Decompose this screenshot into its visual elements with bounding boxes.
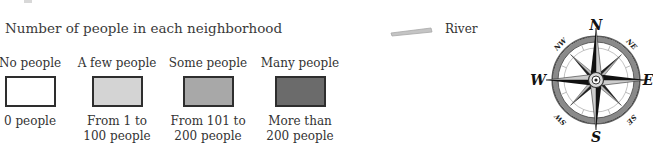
legend-item-few-people: A few people From 1 to 100 people <box>69 56 165 143</box>
legend-desc-line2: 100 people <box>69 129 165 143</box>
legend-item-description: 0 people <box>0 114 78 129</box>
legend-desc-line2: 200 people <box>252 129 348 143</box>
legend-title: Number of people in each neighborhood <box>5 20 282 36</box>
legend-item-label: Some people <box>160 56 256 76</box>
legend-swatch-dark-gray <box>275 76 326 107</box>
legend-item-description: More than 200 people <box>252 114 348 143</box>
compass-southeast-label: SE <box>624 113 638 127</box>
compass-west-label: W <box>530 72 547 88</box>
legend-desc-line1: More than <box>252 114 348 129</box>
legend-desc-line1: From 1 to <box>69 114 165 129</box>
legend-desc-line1: 0 people <box>0 114 78 129</box>
compass-east-label: E <box>642 72 653 88</box>
legend-swatch-light-gray <box>92 76 143 107</box>
legend-desc-line2: 200 people <box>160 129 256 143</box>
river-icon <box>390 24 434 38</box>
legend-item-some-people: Some people From 101 to 200 people <box>160 56 256 143</box>
legend-item-many-people: Many people More than 200 people <box>252 56 348 143</box>
legend-swatch-white <box>5 76 56 107</box>
compass-southwest-label: SW <box>552 111 568 127</box>
river-label: River <box>445 22 478 36</box>
legend-swatch-mid-gray <box>183 76 234 107</box>
legend-item-description: From 1 to 100 people <box>69 114 165 143</box>
legend-item-label: Many people <box>252 56 348 76</box>
compass-south-label: S <box>591 129 601 143</box>
compass-rose-icon: N S W E NW NE SW SE <box>530 18 653 143</box>
legend-item-label: A few people <box>69 56 165 76</box>
top-edge-mark <box>24 0 32 3</box>
compass-north-label: N <box>589 18 604 33</box>
legend-desc-line1: From 101 to <box>160 114 256 129</box>
legend-item-description: From 101 to 200 people <box>160 114 256 143</box>
legend-item-label: No people <box>0 56 78 76</box>
legend-item-no-people: No people 0 people <box>0 56 78 129</box>
